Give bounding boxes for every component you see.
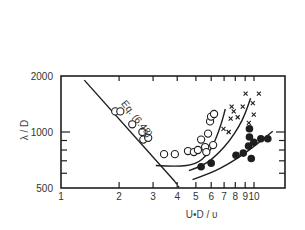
cross-marker (232, 109, 236, 113)
open-circle-marker (198, 136, 205, 143)
y-axis-title: λ / D (19, 120, 30, 141)
x-tick-label: 10 (248, 191, 260, 202)
filled-circle-marker (257, 135, 265, 143)
cross-marker (247, 121, 251, 125)
cross-marker (251, 101, 255, 105)
cross-marker (244, 92, 248, 96)
x-tick-label: 5 (193, 191, 199, 202)
y-tick-label: 500 (36, 183, 53, 194)
data-points (112, 92, 272, 171)
chart-canvas: 1234567891050010002000U•D / υλ / DEq. (6… (0, 0, 305, 230)
filled-circle-marker (239, 149, 247, 157)
open-circle-marker (160, 151, 167, 158)
x-tick-label: 1 (58, 191, 64, 202)
filled-circle-marker (232, 151, 240, 159)
cross-marker (252, 113, 256, 117)
cross-marker (222, 127, 226, 131)
x-tick-label: 2 (116, 191, 122, 202)
axis-labels: 1234567891050010002000U•D / υλ / DEq. (6… (19, 71, 260, 220)
cross-marker (227, 130, 231, 134)
x-axis-title: U•D / υ (186, 209, 218, 220)
y-tick-label: 1000 (31, 127, 54, 138)
trend-lines (84, 80, 272, 187)
y-tick-label: 2000 (31, 71, 54, 82)
cross-marker (236, 115, 240, 119)
open-circle-marker (210, 142, 217, 149)
open-circle-marker (171, 151, 178, 158)
filled-circle-marker (264, 135, 272, 143)
filled-circle-marker (197, 163, 205, 171)
cross-marker (230, 105, 234, 109)
x-tick-label: 7 (221, 191, 227, 202)
filled-circle-marker (247, 155, 255, 163)
equation-annotation: Eq. (6.48) (119, 98, 155, 139)
filled-circle-marker (207, 159, 215, 167)
x-tick-label: 4 (174, 191, 180, 202)
x-tick-label: 8 (233, 191, 239, 202)
open-circle-marker (210, 110, 217, 117)
line-cross-trend (189, 98, 251, 170)
open-circle-marker (194, 146, 201, 153)
cross-marker (241, 105, 245, 109)
filled-circle-marker (246, 125, 254, 133)
x-tick-label: 3 (150, 191, 156, 202)
filled-circle-marker (250, 139, 258, 147)
cross-marker (229, 117, 233, 121)
open-circle-marker (203, 148, 210, 155)
cross-marker (257, 92, 261, 96)
open-circle-marker (204, 130, 211, 137)
x-tick-label: 6 (208, 191, 214, 202)
